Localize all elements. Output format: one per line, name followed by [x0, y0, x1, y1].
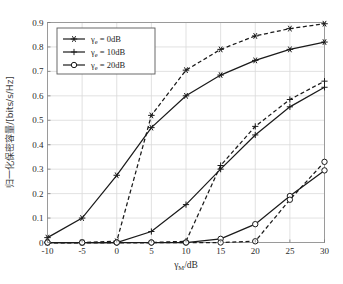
figure-container: -10-5051015202530 00.10.20.30.40.50.60.7… [0, 0, 343, 284]
legend-value: = 0dB [98, 34, 122, 44]
y-tick-label: 0.3 [32, 164, 44, 174]
legend-box: γe = 0dBγe = 10dBγe = 20dB [57, 28, 155, 74]
y-axis-label-text: 归一化保密容量/[bits/s/Hz] [4, 76, 15, 188]
marker-circle [71, 62, 76, 67]
legend-value: = 10dB [98, 47, 126, 57]
y-tick-label: 0.7 [32, 66, 44, 76]
y-tick-label: 0.1 [32, 213, 43, 223]
x-axis-label-unit: /dB [184, 260, 198, 270]
chart-background [0, 0, 343, 284]
x-tick-label: 15 [216, 246, 226, 256]
y-tick-label: 0.8 [32, 42, 44, 52]
y-tick-label: 0.2 [32, 189, 43, 199]
x-tick-label: 0 [115, 246, 120, 256]
y-axis-label: 归一化保密容量/[bits/s/Hz] [4, 76, 15, 188]
marker-circle [253, 221, 258, 226]
y-tick-label: 0.9 [32, 18, 44, 28]
x-axis-tick-labels: -10-5051015202530 [42, 246, 330, 256]
x-axis-label: γM/dB [173, 260, 198, 271]
top-caption [6, 0, 336, 10]
x-tick-label: -5 [78, 246, 86, 256]
x-tick-label: 25 [285, 246, 295, 256]
marker-circle [322, 159, 327, 164]
legend-value: = 20dB [98, 60, 126, 70]
y-tick-label: 0.4 [32, 140, 44, 150]
marker-circle [287, 197, 292, 202]
marker-circle [322, 168, 327, 173]
x-tick-label: 20 [251, 246, 261, 256]
y-tick-label: 0.5 [32, 115, 44, 125]
x-tick-label: 10 [182, 246, 192, 256]
legend-entry-label: γe = 0dB [90, 34, 121, 45]
svg-text:γM/dB: γM/dB [173, 260, 198, 271]
x-tick-label: 5 [149, 246, 154, 256]
x-tick-label: 30 [320, 246, 330, 256]
y-tick-label: 0 [39, 238, 44, 248]
y-tick-label: 0.6 [32, 91, 44, 101]
secrecy-capacity-line-chart: -10-5051015202530 00.10.20.30.40.50.60.7… [0, 0, 343, 284]
